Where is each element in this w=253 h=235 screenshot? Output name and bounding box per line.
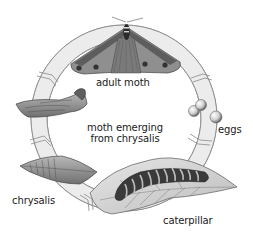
label-moth-emerging: moth emerging from chrysalis bbox=[80, 122, 170, 144]
label-moth-emerging-line2: from chrysalis bbox=[80, 133, 170, 144]
label-moth-emerging-line1: moth emerging bbox=[80, 122, 170, 133]
label-eggs: eggs bbox=[218, 124, 242, 135]
label-caterpillar: caterpillar bbox=[163, 215, 213, 226]
label-chrysalis: chrysalis bbox=[12, 195, 55, 206]
label-adult-moth: adult moth bbox=[96, 77, 150, 88]
